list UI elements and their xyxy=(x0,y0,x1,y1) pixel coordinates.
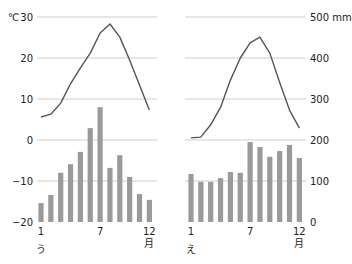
month-tick-label: 1 xyxy=(188,226,194,237)
temp-tick-label: 30 xyxy=(20,12,33,23)
precip-tick-label: 0 xyxy=(310,217,316,228)
precip-tick-label: 200 xyxy=(310,135,329,146)
temp-tick-label: −10 xyxy=(12,176,33,187)
climate-charts: 3020100−10−20℃ 500 mm4003002001000 1712月… xyxy=(0,0,352,264)
precipitation-bar xyxy=(248,142,253,222)
precip-tick-label: 500 mm xyxy=(310,12,352,23)
month-unit-label: 月 xyxy=(144,238,154,249)
temp-tick-label: 20 xyxy=(20,53,33,64)
month-tick-label: 7 xyxy=(247,226,253,237)
precipitation-bar xyxy=(117,155,122,222)
precipitation-bar xyxy=(107,168,112,222)
precipitation-bar xyxy=(238,173,243,222)
precipitation-axis: 500 mm4003002001000 xyxy=(310,12,352,228)
precipitation-bar xyxy=(38,203,43,222)
climate-chart-e: 1712月え xyxy=(185,17,306,255)
temperature-axis: 3020100−10−20℃ xyxy=(8,12,33,228)
precipitation-bar xyxy=(267,157,272,222)
precipitation-bar xyxy=(88,128,93,222)
precipitation-bar xyxy=(287,145,292,222)
temp-tick-label: 0 xyxy=(27,135,33,146)
climate-chart-u: 1712月う xyxy=(36,17,157,255)
precipitation-bar xyxy=(228,172,233,222)
precipitation-bar xyxy=(58,173,63,222)
precipitation-bar xyxy=(147,200,152,222)
precipitation-bar xyxy=(257,147,262,222)
temperature-line xyxy=(41,24,149,117)
precipitation-bar xyxy=(48,195,53,222)
precipitation-bar xyxy=(218,178,223,222)
precipitation-bar xyxy=(68,164,73,222)
temp-tick-label: −20 xyxy=(12,217,33,228)
temp-tick-label: 10 xyxy=(20,94,33,105)
precipitation-bar xyxy=(297,158,302,222)
chart-label: う xyxy=(36,244,46,255)
month-tick-label: 1 xyxy=(38,226,44,237)
precipitation-bar xyxy=(208,182,213,222)
month-tick-label: 7 xyxy=(97,226,103,237)
precipitation-bar xyxy=(78,152,83,222)
precip-tick-label: 300 xyxy=(310,94,329,105)
month-unit-label: 月 xyxy=(294,238,304,249)
temp-unit-label: ℃ xyxy=(8,12,19,23)
precip-tick-label: 400 xyxy=(310,53,329,64)
temperature-line xyxy=(191,37,299,138)
month-tick-label: 12 xyxy=(293,226,306,237)
precipitation-bar xyxy=(98,107,103,222)
precipitation-bar xyxy=(127,177,132,222)
precip-tick-label: 100 xyxy=(310,176,329,187)
precipitation-bar xyxy=(188,174,193,222)
precipitation-bar xyxy=(137,194,142,222)
precipitation-bar xyxy=(198,182,203,222)
chart-label: え xyxy=(186,244,196,255)
precipitation-bar xyxy=(277,151,282,222)
month-tick-label: 12 xyxy=(143,226,156,237)
